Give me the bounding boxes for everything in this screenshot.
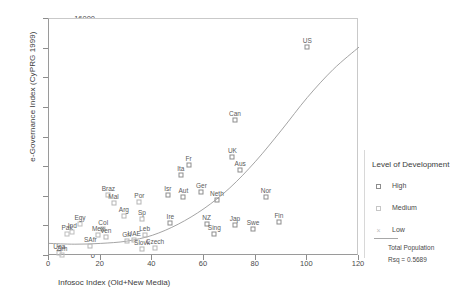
data-point: [111, 201, 116, 206]
x-tick-label: 0: [33, 259, 63, 268]
legend-marker-icon: [376, 206, 381, 211]
data-point: [140, 246, 145, 251]
data-point: [121, 214, 126, 219]
legend-entry-label: High: [392, 182, 406, 189]
legend-fit-label: Total Population: [388, 244, 434, 251]
data-point: [78, 222, 83, 227]
x-tick-label: 100: [291, 259, 321, 268]
data-point-label: Pak: [61, 224, 72, 231]
data-point-label: Ven: [100, 227, 111, 234]
legend-entry-label: Low: [392, 226, 405, 233]
data-point: [124, 239, 129, 244]
x-tick-label: 60: [188, 259, 218, 268]
data-point: [103, 234, 108, 239]
data-point-label: Fin: [274, 212, 283, 219]
legend-marker-icon: [376, 184, 381, 189]
data-point-label: Ire: [167, 213, 175, 220]
data-point: [165, 192, 170, 197]
data-point-label: Egy: [74, 214, 85, 221]
data-point-label: Ger: [196, 182, 207, 189]
legend-entry-label: Medium: [392, 204, 417, 211]
data-point: [65, 231, 70, 236]
data-point-label: Czech: [146, 238, 164, 245]
data-point: [230, 154, 235, 159]
x-tick-label: 120: [343, 259, 373, 268]
data-point-label: US: [303, 37, 312, 44]
data-point-label: Fr: [185, 155, 191, 162]
data-point: [264, 195, 269, 200]
data-point: [168, 221, 173, 226]
data-point-label: Arg: [119, 206, 129, 213]
data-point: [140, 216, 145, 221]
data-point-label: Can: [229, 110, 241, 117]
legend-divider: [364, 150, 365, 258]
data-point-label: Aus: [235, 160, 246, 167]
data-point: [137, 199, 142, 204]
data-point-label: UK: [228, 147, 237, 154]
data-point-label: NZ: [202, 214, 211, 221]
data-point: [276, 219, 281, 224]
data-point-label: Neth: [210, 190, 224, 197]
data-point-label: Braz: [102, 185, 115, 192]
data-point: [186, 162, 191, 167]
data-point: [238, 168, 243, 173]
data-point: [212, 231, 217, 236]
legend-marker-icon: ×: [376, 228, 381, 233]
data-point-label: Mal: [108, 193, 118, 200]
legend-fit-line: [374, 238, 398, 239]
data-point-label: Isr: [164, 185, 171, 192]
data-point: [214, 197, 219, 202]
data-point-label: Nor: [261, 187, 271, 194]
x-tick-label: 40: [136, 259, 166, 268]
data-point-label: Ita: [177, 165, 184, 172]
data-point-label: UAE: [128, 230, 141, 237]
data-point: [88, 243, 93, 248]
data-point-label: Sp: [138, 209, 146, 216]
data-point: [181, 195, 186, 200]
data-point: [152, 245, 157, 250]
plot-area: USCanUKFrItaAusIsrAutGerNethNorBrazMalPo…: [48, 18, 358, 255]
data-point: [305, 45, 310, 50]
data-point: [233, 222, 238, 227]
data-point: [251, 227, 256, 232]
legend-rsq-label: Rsq = 0.5689: [388, 256, 427, 263]
data-point: [199, 190, 204, 195]
x-tick-label: 80: [240, 259, 270, 268]
x-tick-label: 20: [85, 259, 115, 268]
data-point-label: Aut: [178, 187, 188, 194]
data-point-label: Swe: [247, 219, 260, 226]
data-point: [59, 252, 64, 257]
x-axis-label: Infosoc Index (Old+New Media): [58, 278, 170, 287]
chart-root: e-Governance Index (CyPRG 1999) Infosoc …: [0, 0, 457, 307]
data-point: [178, 172, 183, 177]
legend-title: Level of Development: [372, 160, 449, 169]
data-point-label: SAfr: [84, 236, 97, 243]
data-point-label: Sing: [208, 224, 221, 231]
data-point-label: Zim: [56, 245, 67, 252]
data-point: [233, 117, 238, 122]
data-point-label: Por: [134, 192, 144, 199]
y-axis-label: e-Governance Index (CyPRG 1999): [28, 0, 37, 197]
data-point-label: Jap: [230, 215, 240, 222]
